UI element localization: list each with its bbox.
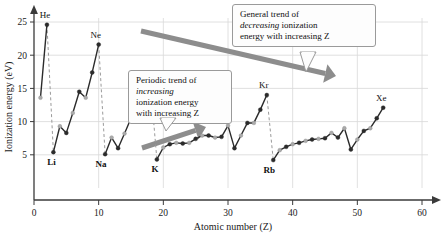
chart-figure: 0102030405060 510152025 HeLiNeNaArKKrRbX… bbox=[0, 0, 445, 241]
callout-tails bbox=[0, 0, 445, 241]
